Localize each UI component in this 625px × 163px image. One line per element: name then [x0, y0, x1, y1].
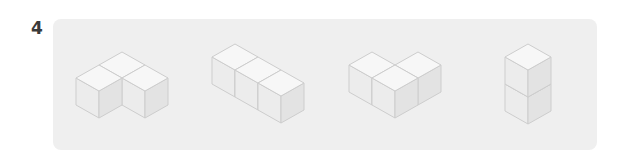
figure-vertical-stack-two-cubes	[505, 44, 551, 124]
figure-bent-row-three-cubes	[349, 52, 441, 118]
figure-l-shape-three-cubes	[76, 52, 168, 118]
cube-figures	[0, 0, 625, 163]
figure-straight-row-three-cubes	[212, 44, 304, 123]
